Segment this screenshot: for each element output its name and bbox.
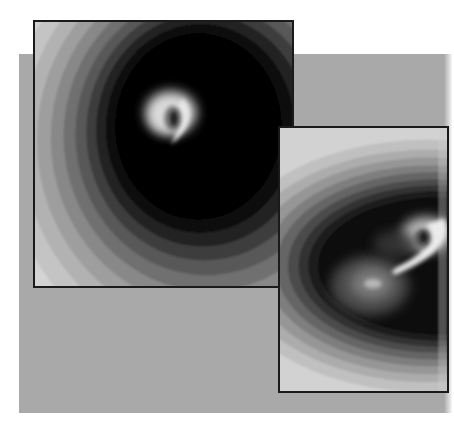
contour-image-panel-2: [278, 126, 449, 393]
contour-plot-2: [280, 128, 447, 391]
glow-feature-2: [331, 256, 409, 315]
contour-plot-1: [35, 22, 292, 286]
contour-image-panel-1: [33, 20, 294, 288]
